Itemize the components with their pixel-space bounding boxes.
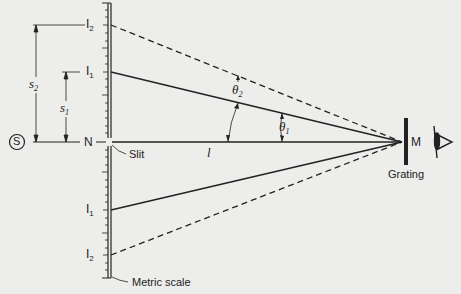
metric-scale-label: Metric scale — [132, 277, 191, 288]
scale-leader — [0, 0, 461, 294]
